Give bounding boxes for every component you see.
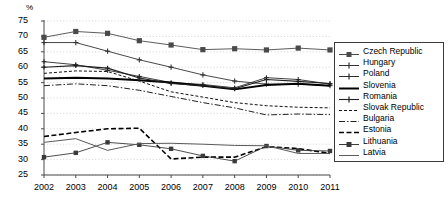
data-point xyxy=(200,47,205,52)
data-point xyxy=(137,38,142,43)
legend-item[interactable]: Estonia xyxy=(338,124,441,135)
legend-label: Estonia xyxy=(363,125,391,134)
data-point xyxy=(105,140,109,144)
legend-swatch-icon xyxy=(338,68,360,79)
legend-swatch-icon xyxy=(338,113,360,124)
data-point xyxy=(41,35,46,40)
legend-item[interactable]: Latvia xyxy=(338,147,441,158)
data-point xyxy=(73,29,78,34)
legend-item[interactable]: Slovak Republic xyxy=(338,102,441,113)
legend-swatch-icon xyxy=(338,147,360,158)
legend-item[interactable]: Czech Republic xyxy=(338,46,441,57)
series-line xyxy=(44,84,330,115)
data-point xyxy=(264,47,269,52)
legend-swatch-icon xyxy=(338,102,360,113)
legend-item[interactable]: Bulgaria xyxy=(338,113,441,124)
series-line xyxy=(44,78,330,90)
data-point xyxy=(169,42,174,47)
legend-label: Bulgaria xyxy=(363,114,394,123)
data-point xyxy=(296,46,301,51)
legend-label: Poland xyxy=(363,69,389,78)
series-line xyxy=(44,139,330,154)
series-line xyxy=(44,71,330,108)
legend-label: Hungary xyxy=(363,58,395,67)
legend-swatch-icon xyxy=(338,57,360,68)
data-point xyxy=(105,31,110,36)
data-point xyxy=(327,47,332,52)
legend-swatch-icon xyxy=(338,80,360,91)
data-point xyxy=(296,148,300,152)
legend-item[interactable]: Poland xyxy=(338,68,441,79)
data-point xyxy=(169,147,173,151)
legend-label: Lithuania xyxy=(363,137,398,146)
chart-legend: Czech RepublicHungaryPolandSloveniaRoman… xyxy=(334,42,444,162)
legend-label: Slovak Republic xyxy=(363,103,424,112)
data-point xyxy=(74,151,78,155)
legend-label: Romania xyxy=(363,92,397,101)
legend-item[interactable]: Slovenia xyxy=(338,80,441,91)
legend-label: Czech Republic xyxy=(363,47,423,56)
data-point xyxy=(232,159,236,163)
series-line xyxy=(42,59,333,90)
legend-item[interactable]: Romania xyxy=(338,91,441,102)
legend-label: Slovenia xyxy=(363,81,396,90)
line-chart: % 7570656055504540353025 200220032004200… xyxy=(0,0,448,202)
legend-label: Latvia xyxy=(363,148,386,157)
data-point xyxy=(42,155,46,159)
legend-item[interactable]: Hungary xyxy=(338,57,441,68)
series-line xyxy=(41,29,332,53)
legend-swatch-icon xyxy=(338,136,360,147)
data-point xyxy=(232,46,237,51)
data-point xyxy=(201,154,205,158)
legend-swatch-icon xyxy=(338,124,360,135)
legend-swatch-icon xyxy=(338,46,360,57)
legend-item[interactable]: Lithuania xyxy=(338,136,441,147)
legend-swatch-icon xyxy=(338,91,360,102)
data-point xyxy=(328,149,332,153)
